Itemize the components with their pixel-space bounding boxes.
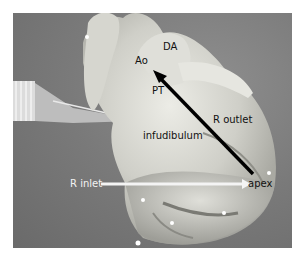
label-r-inlet: R inlet [70,178,102,189]
label-ao: Ao [135,55,148,66]
label-da: DA [163,41,177,52]
label-infundibulum: infudibulum [143,130,203,141]
label-apex: apex [248,178,272,189]
label-r-outlet: R outlet [213,114,252,125]
label-pt: PT [152,85,164,96]
specimen-photo: Ao DA PT infudibulum R outlet R inlet ap… [13,13,292,248]
